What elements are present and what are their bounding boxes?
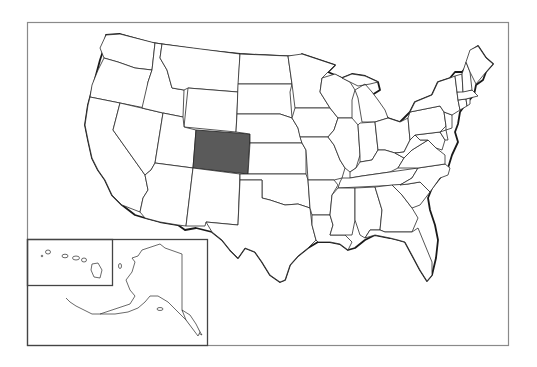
state-iowa[interactable]	[292, 108, 338, 137]
state-ohio[interactable]	[375, 118, 410, 153]
state-wyoming[interactable]	[184, 88, 238, 132]
state-kansas[interactable]	[248, 143, 306, 174]
state-north-dakota[interactable]	[238, 54, 292, 84]
state-montana[interactable]	[160, 44, 240, 92]
state-arizona[interactable]	[140, 163, 193, 226]
state-connecticut[interactable]	[458, 99, 467, 110]
state-hawaii[interactable]	[41, 250, 102, 278]
insets	[28, 240, 208, 346]
hawaii-inset-frame	[28, 240, 113, 286]
us-map	[0, 0, 537, 367]
state-new-mexico[interactable]	[186, 168, 240, 226]
state-south-dakota[interactable]	[237, 84, 292, 118]
state-colorado[interactable]	[193, 130, 250, 174]
state-mississippi[interactable]	[330, 188, 355, 235]
state-alaska[interactable]	[66, 244, 202, 336]
